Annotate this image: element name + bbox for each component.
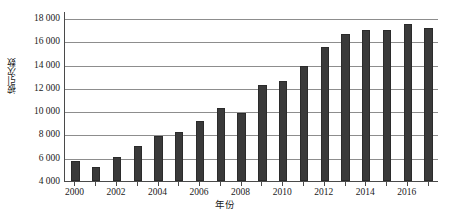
bar <box>71 161 79 181</box>
bar <box>258 85 266 181</box>
x-tick-label: 2016 <box>397 187 416 198</box>
bar <box>404 24 412 181</box>
x-tick-label: 2004 <box>148 187 167 198</box>
bar <box>237 113 245 181</box>
y-tick-mark <box>64 66 65 67</box>
x-tick-mark <box>158 182 159 186</box>
bar-chart-figure: 被引次数 4 0006 0008 00010 00012 00014 00016… <box>0 0 450 221</box>
x-tick-label: 2000 <box>65 187 84 198</box>
bar <box>424 28 432 181</box>
y-tick-label: 10 000 <box>18 107 60 117</box>
x-tick-label: 2002 <box>106 187 125 198</box>
x-tick-mark <box>74 182 75 186</box>
x-tick-mark <box>345 182 346 186</box>
y-tick-label: 4 000 <box>18 177 60 187</box>
plot-area <box>64 12 438 182</box>
bar <box>300 66 308 181</box>
x-tick-label: 2006 <box>190 187 209 198</box>
y-tick-mark <box>64 19 65 20</box>
x-tick-mark <box>178 182 179 186</box>
x-tick-label: 2010 <box>273 187 292 198</box>
y-tick-mark <box>64 135 65 136</box>
bar <box>175 132 183 181</box>
x-tick-mark <box>303 182 304 186</box>
y-tick-label: 6 000 <box>18 154 60 164</box>
x-tick-mark <box>428 182 429 186</box>
y-tick-label: 8 000 <box>18 131 60 141</box>
x-tick-mark <box>324 182 325 186</box>
x-tick-label: 2012 <box>314 187 333 198</box>
bar <box>279 81 287 181</box>
bar <box>383 30 391 181</box>
x-tick-mark <box>241 182 242 186</box>
bar <box>321 47 329 181</box>
bar <box>134 146 142 181</box>
bar <box>113 157 121 181</box>
y-tick-label: 12 000 <box>18 84 60 94</box>
bar <box>154 136 162 181</box>
x-tick-mark <box>199 182 200 186</box>
y-tick-mark <box>64 89 65 90</box>
x-tick-mark <box>386 182 387 186</box>
y-tick-label: 16 000 <box>18 38 60 48</box>
x-tick-mark <box>407 182 408 186</box>
x-tick-mark <box>365 182 366 186</box>
bar <box>341 34 349 181</box>
bar <box>217 108 225 181</box>
bar-series <box>65 12 438 181</box>
bar <box>92 167 100 181</box>
x-tick-mark <box>220 182 221 186</box>
y-tick-mark <box>64 159 65 160</box>
y-tick-mark <box>64 42 65 43</box>
x-tick-label: 2008 <box>231 187 250 198</box>
x-axis-title: 年份 <box>0 200 450 211</box>
y-tick-mark <box>64 112 65 113</box>
bar <box>362 30 370 181</box>
bar <box>196 121 204 181</box>
x-tick-mark <box>282 182 283 186</box>
y-tick-label: 14 000 <box>18 61 60 71</box>
x-tick-mark <box>116 182 117 186</box>
x-tick-mark <box>137 182 138 186</box>
y-axis-tick-labels: 4 0006 0008 00010 00012 00014 00016 0001… <box>18 12 60 182</box>
x-tick-label: 2014 <box>356 187 375 198</box>
y-tick-label: 18 000 <box>18 14 60 24</box>
x-tick-mark <box>261 182 262 186</box>
x-tick-mark <box>95 182 96 186</box>
